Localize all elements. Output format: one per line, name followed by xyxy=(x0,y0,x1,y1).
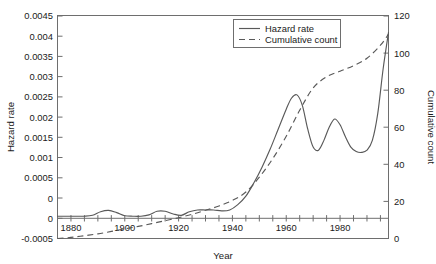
hazard-rate-line xyxy=(58,32,389,216)
y-tick-label: 0.0005 xyxy=(24,172,53,183)
y2-tick-label: 100 xyxy=(394,48,410,59)
x-tick-label: 1920 xyxy=(168,222,189,233)
plot-frame xyxy=(58,16,389,239)
x-tick-label: 1940 xyxy=(222,222,243,233)
y2-axis-title: Cumulative count xyxy=(426,90,436,164)
y-tick-label: 0 xyxy=(48,213,53,224)
y-tick-label: 0.002 xyxy=(30,112,53,123)
y-axis-title: Hazard rate xyxy=(5,102,16,152)
y2-tick-label: 60 xyxy=(394,122,404,133)
left-axis-ticks xyxy=(58,16,63,239)
y2-tick-label: 40 xyxy=(394,159,404,170)
y2-tick-label: 80 xyxy=(394,85,404,96)
y-tick-label: 0.0045 xyxy=(24,10,53,21)
y-tick-label: 0.003 xyxy=(30,71,53,82)
hazard-rate-cumulative-count-chart: 0.0045 0.004 0.0035 0.003 0.0025 0.002 0… xyxy=(0,0,436,264)
left-axis-tick-labels: 0.0045 0.004 0.0035 0.003 0.0025 0.002 0… xyxy=(21,10,53,244)
y2-tick-label: 0 xyxy=(394,233,399,244)
y-tick-label: 0 xyxy=(48,193,53,204)
y2-tick-label: 20 xyxy=(394,196,404,207)
x-axis-title: Year xyxy=(213,250,233,261)
y-tick-label: 0.0015 xyxy=(24,132,53,143)
x-axis-tick-labels: 188019001920194019601980 xyxy=(61,222,351,233)
x-tick-label: 1880 xyxy=(61,222,82,233)
legend: Hazard rate Cumulative count xyxy=(234,20,341,48)
right-axis-tick-labels: 120 100 80 60 40 20 0 xyxy=(394,10,410,244)
x-tick-label: 1960 xyxy=(276,222,297,233)
y2-tick-label: 120 xyxy=(394,10,410,21)
legend-label-hazard-rate: Hazard rate xyxy=(265,23,314,34)
y-tick-label: 0.0025 xyxy=(24,91,53,102)
legend-label-cumulative-count: Cumulative count xyxy=(265,34,338,45)
cumulative-count-line xyxy=(58,34,389,238)
y-tick-label: 0.001 xyxy=(30,152,53,163)
y-tick-label: -0.0005 xyxy=(21,233,53,244)
y-tick-label: 0.0035 xyxy=(24,51,53,62)
chart-container: 0.0045 0.004 0.0035 0.003 0.0025 0.002 0… xyxy=(0,0,436,264)
y-tick-label: 0.004 xyxy=(30,31,53,42)
x-tick-label: 1980 xyxy=(330,222,351,233)
